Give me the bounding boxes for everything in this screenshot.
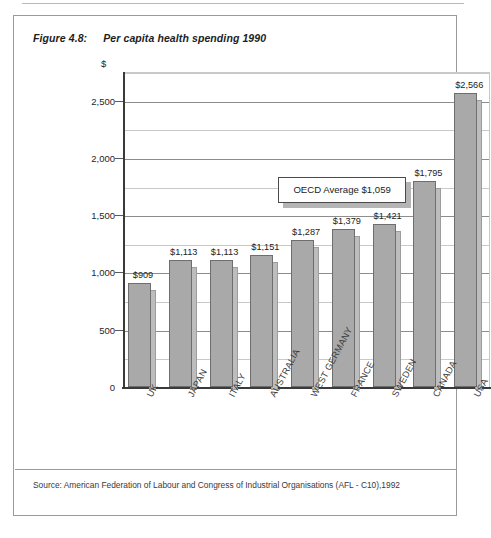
y-axis-labels: 05001,0001,5002,0002,500	[61, 72, 115, 387]
bar-group: $1,421	[368, 72, 409, 387]
bar	[169, 260, 192, 387]
y-axis-tick	[115, 101, 123, 102]
bar-value-label: $2,566	[455, 80, 483, 90]
page-top-rule	[22, 3, 464, 4]
y-axis-tick-label: 1,000	[91, 267, 115, 278]
bar-group: $1,113	[205, 72, 246, 387]
bar	[373, 224, 396, 387]
bar-value-label: $1,379	[333, 216, 361, 226]
y-axis-tick-label: 1,500	[91, 210, 115, 221]
figure-title: Figure 4.8:Per capita health spending 19…	[33, 32, 266, 44]
bar-group: $1,151	[245, 72, 286, 387]
y-axis-tick-label: 2,000	[91, 152, 115, 163]
y-axis-tick-label: 500	[99, 324, 115, 335]
bar-value-label: $1,151	[251, 242, 279, 252]
bar	[454, 93, 477, 387]
bar-group: $1,287	[286, 72, 327, 387]
y-axis-tick	[115, 158, 123, 159]
figure-title-text: Per capita health spending 1990	[103, 32, 266, 44]
bar	[413, 181, 436, 387]
y-axis-tick-label: 0	[110, 382, 115, 393]
bar-value-label: $1,795	[414, 168, 442, 178]
y-axis-tick	[115, 215, 123, 216]
bar-group: $1,113	[164, 72, 205, 387]
y-axis-unit: $	[101, 58, 106, 69]
bar-group: $909	[123, 72, 164, 387]
y-axis-tick-label: 2,500	[91, 95, 115, 106]
bar-series: $909$1,113$1,113$1,151$1,287$1,379$1,421…	[123, 72, 490, 387]
bar-value-label: $1,113	[170, 247, 197, 257]
y-axis-tick	[115, 272, 123, 273]
bar	[128, 283, 151, 387]
bar-value-label: $909	[133, 270, 153, 280]
source-note: Source: American Federation of Labour an…	[33, 480, 400, 490]
oecd-average-callout: OECD Average $1,059	[278, 177, 406, 203]
bar-group: $1,795	[408, 72, 449, 387]
x-axis-category-labels: UKJAPANITALYAUSTRALIAWEST GERMANYFRANCES…	[123, 390, 490, 480]
figure-number: Figure 4.8:	[33, 32, 87, 44]
bar	[210, 260, 233, 387]
footer-separator	[15, 469, 457, 470]
bar	[250, 255, 273, 387]
chart-area: $ 05001,0001,5002,0002,500 $909$1,113$1,…	[61, 72, 453, 404]
bar-group: $2,566	[449, 72, 490, 387]
bar-value-label: $1,113	[211, 247, 238, 257]
figure-frame: Figure 4.8:Per capita health spending 19…	[13, 15, 457, 516]
y-axis-tick	[115, 330, 123, 331]
bar-value-label: $1,287	[292, 227, 320, 237]
bar-value-label: $1,421	[374, 211, 402, 221]
